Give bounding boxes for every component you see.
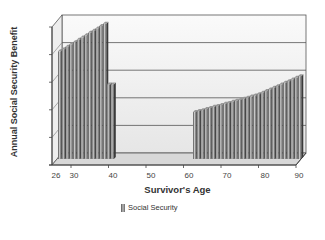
x-tick: 40: [109, 171, 118, 180]
x-tick: 26: [52, 171, 61, 180]
legend: Social Security: [121, 203, 178, 212]
y-axis-label: Annual Social Security Benefit: [9, 27, 19, 158]
legend-swatch-icon: [121, 204, 125, 212]
x-tick: 90: [295, 171, 304, 180]
x-axis-label: Survivor's Age: [0, 184, 325, 195]
x-tick: 80: [261, 171, 270, 180]
x-tick: 70: [223, 171, 232, 180]
x-tick: 50: [147, 171, 156, 180]
legend-entry: Social Security: [128, 203, 178, 212]
x-tick: 30: [70, 171, 79, 180]
x-tick: 60: [185, 171, 194, 180]
